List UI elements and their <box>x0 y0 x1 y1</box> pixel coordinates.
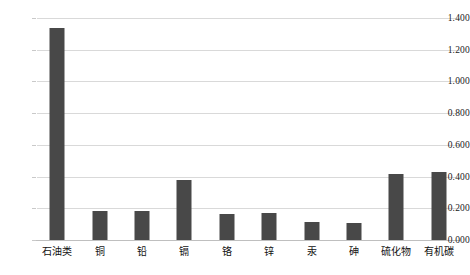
bar-slot <box>121 18 163 240</box>
bar-slot <box>375 18 417 240</box>
x-axis-category-label: 铅 <box>121 245 163 258</box>
x-axis-category-label: 镉 <box>163 245 205 258</box>
x-axis-category-label: 砷 <box>333 245 375 258</box>
x-axis-category-label: 石油类 <box>36 245 78 258</box>
bar-slot <box>418 18 460 240</box>
gridline <box>36 240 460 241</box>
x-axis-category-label: 有机碳 <box>418 245 460 258</box>
bar-chart: 0.0000.2000.4000.6000.8001.0001.2001.400… <box>0 0 470 275</box>
bar-slot <box>163 18 205 240</box>
bar <box>431 172 446 240</box>
y-axis-tick-mark <box>32 240 36 241</box>
bar-series <box>36 18 460 240</box>
bar-slot <box>248 18 290 240</box>
x-axis-category-label: 铜 <box>78 245 120 258</box>
bar <box>219 214 234 240</box>
x-axis-category-label: 锌 <box>248 245 290 258</box>
bar-slot <box>333 18 375 240</box>
x-axis-category-label: 铬 <box>206 245 248 258</box>
bar <box>50 28 65 240</box>
x-axis-category-label: 汞 <box>290 245 332 258</box>
bar-slot <box>36 18 78 240</box>
bar <box>389 174 404 240</box>
bar <box>262 213 277 240</box>
bar <box>346 223 361 240</box>
bar <box>92 211 107 240</box>
bar <box>177 180 192 240</box>
bar-slot <box>78 18 120 240</box>
bar-slot <box>206 18 248 240</box>
bar <box>304 222 319 240</box>
bar <box>134 211 149 240</box>
bar-slot <box>290 18 332 240</box>
x-axis-category-label: 硫化物 <box>375 245 417 258</box>
x-axis-category-labels: 石油类铜铅镉铬锌汞砷硫化物有机碳 <box>36 245 460 267</box>
